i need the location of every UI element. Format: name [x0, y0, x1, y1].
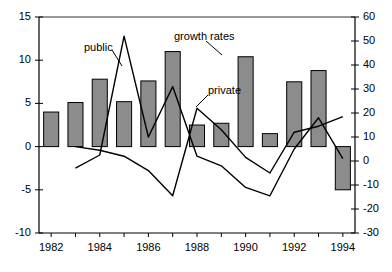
right-axis-tick-label: 40: [363, 59, 392, 70]
left-axis-tick-label: 5: [0, 97, 31, 108]
bar: [238, 57, 253, 147]
right-axis-tick-label: -20: [363, 203, 392, 214]
right-axis-tick-label: 50: [363, 35, 392, 46]
right-axis-tick-label: 10: [363, 131, 392, 142]
right-axis-tick-label: 60: [363, 11, 392, 22]
bar: [117, 102, 132, 147]
line-series-private: [75, 108, 342, 196]
x-axis-ticks: [51, 233, 343, 237]
x-axis-tick-label: 1988: [175, 242, 219, 253]
x-axis-tick-label: 1982: [29, 242, 73, 253]
line-series-group: [75, 36, 342, 196]
x-axis-tick-label: 1986: [126, 242, 170, 253]
public-label: public: [84, 41, 113, 53]
chart-figure: 151050-5-10 6050403020100-10-20-30 19821…: [0, 0, 392, 272]
left-axis-tick-label: 10: [0, 54, 31, 65]
right-axis-tick-label: 0: [363, 155, 392, 166]
x-axis-tick-label: 1984: [78, 242, 122, 253]
right-axis-tick-label: -30: [363, 227, 392, 238]
private-label: private: [208, 84, 241, 96]
bar: [311, 71, 326, 147]
bar: [92, 79, 107, 146]
right-axis-tick-label: -10: [363, 179, 392, 190]
line-series-public: [75, 36, 342, 196]
bar: [287, 82, 302, 147]
left-axis-tick-label: 15: [0, 11, 31, 22]
x-axis-tick-label: 1992: [272, 242, 316, 253]
left-axis-tick-label: 0: [0, 141, 31, 152]
bar: [262, 134, 277, 147]
growth-rates-label: growth rates: [174, 30, 235, 42]
bar-series-group: [44, 52, 351, 190]
right-axis-tick-label: 30: [363, 83, 392, 94]
x-axis-tick-label: 1990: [224, 242, 268, 253]
growth-rates-leader-line: [206, 41, 222, 55]
private-leader-line: [196, 95, 208, 107]
bar: [44, 112, 59, 147]
bar: [335, 147, 350, 190]
bar: [68, 103, 83, 147]
x-axis-tick-label: 1994: [321, 242, 365, 253]
left-axis-tick-label: -10: [0, 227, 31, 238]
right-axis-tick-label: 20: [363, 107, 392, 118]
left-axis-tick-label: -5: [0, 184, 31, 195]
